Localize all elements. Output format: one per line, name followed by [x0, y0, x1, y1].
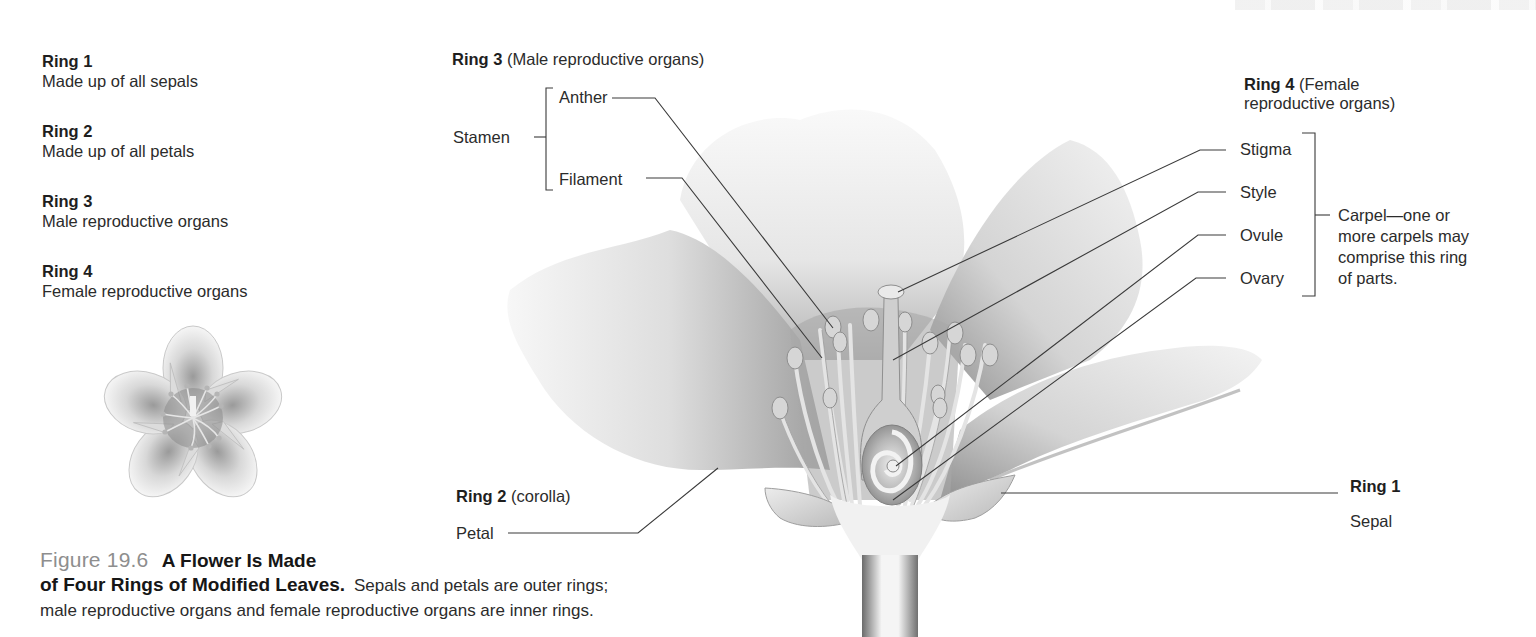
stigma: [878, 285, 904, 299]
ring4-title: Ring 4: [1244, 75, 1294, 93]
caption-body-2: male reproductive organs and female repr…: [40, 601, 594, 620]
filament-label: Filament: [559, 170, 622, 189]
carpel-note: Carpel—one or more carpels may comprise …: [1338, 205, 1469, 289]
ring4-subtitle-line1: (Female: [1299, 75, 1360, 93]
petal-label: Petal: [456, 524, 494, 543]
caption-body-1: Sepals and petals are outer rings;: [354, 576, 608, 595]
ovule: [887, 460, 899, 472]
carpel-note-line: comprise this ring: [1338, 247, 1469, 268]
caption-line-2: of Four Rings of Modified Leaves. Sepals…: [40, 574, 608, 596]
figure-title-part1: A Flower Is Made: [162, 550, 317, 571]
ring2-heading: Ring 2 (corolla): [456, 487, 571, 506]
ovary-label: Ovary: [1240, 269, 1284, 288]
ring2-subtitle: (corolla): [511, 487, 571, 505]
ring4-subtitle-line2: reproductive organs): [1244, 94, 1395, 113]
ring4-heading: Ring 4 (Female reproductive organs): [1244, 75, 1395, 113]
carpel-note-line: more carpels may: [1338, 226, 1469, 247]
figure-number: Figure 19.6: [40, 548, 148, 571]
anther-label: Anther: [559, 88, 608, 107]
stamen-bracket: [534, 88, 553, 190]
carpel-note-line: of parts.: [1338, 268, 1469, 289]
stigma-label: Stigma: [1240, 140, 1291, 159]
ovule-label: Ovule: [1240, 226, 1283, 245]
figure-title-part2: of Four Rings of Modified Leaves.: [40, 574, 345, 595]
caption-line-3: male reproductive organs and female repr…: [40, 601, 594, 621]
ring2-title: Ring 2: [456, 487, 506, 505]
carpel-bracket: [1302, 133, 1330, 296]
caption-line-1: Figure 19.6 A Flower Is Made: [40, 548, 316, 572]
ring3-heading: Ring 3 (Male reproductive organs): [452, 50, 704, 69]
style-label: Style: [1240, 183, 1277, 202]
ring3-title: Ring 3: [452, 50, 502, 68]
ring3-subtitle: (Male reproductive organs): [507, 50, 704, 68]
stem: [862, 555, 918, 637]
stamen-label: Stamen: [453, 128, 510, 147]
carpel-note-line: Carpel—one or: [1338, 205, 1469, 226]
sepal-label: Sepal: [1350, 512, 1392, 531]
ring1-title: Ring 1: [1350, 477, 1400, 496]
